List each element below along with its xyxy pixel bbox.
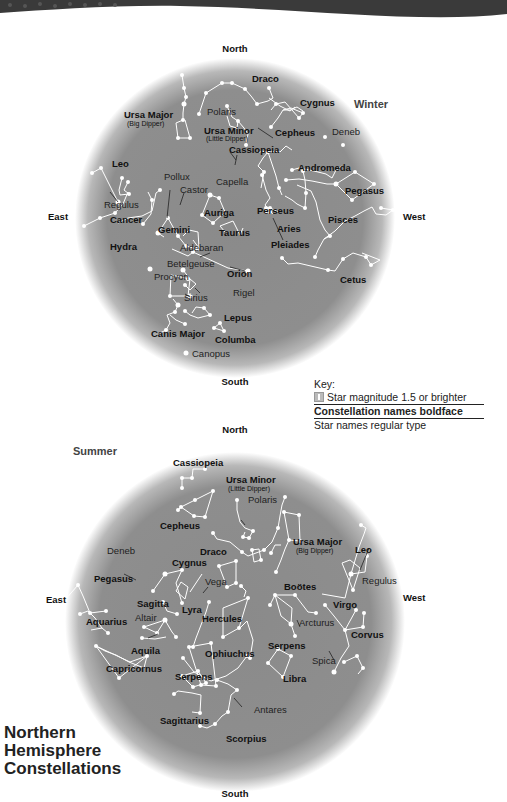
- svg-text:Libra: Libra: [283, 673, 307, 684]
- svg-text:Procyon: Procyon: [154, 271, 189, 282]
- svg-text:Andromeda: Andromeda: [298, 162, 352, 173]
- summer-season-label: Summer: [73, 445, 118, 457]
- svg-text:Perseus: Perseus: [257, 205, 294, 216]
- svg-text:Hercules: Hercules: [202, 613, 242, 624]
- svg-text:Lepus: Lepus: [224, 312, 252, 323]
- svg-text:Cepheus: Cepheus: [275, 127, 315, 138]
- summer-east-label: East: [46, 594, 67, 605]
- svg-text:Serpens: Serpens: [268, 640, 306, 651]
- bright-star-icon: [314, 392, 324, 402]
- svg-text:Aries: Aries: [277, 223, 301, 234]
- svg-text:Capricornus: Capricornus: [106, 663, 162, 674]
- svg-text:Auriga: Auriga: [204, 207, 235, 218]
- svg-text:Altair: Altair: [135, 612, 157, 623]
- svg-text:Cancer: Cancer: [110, 214, 143, 225]
- winter-map: North South East West Winter Draco Cygnu…: [48, 43, 426, 387]
- svg-text:Sagittarius: Sagittarius: [160, 715, 209, 726]
- svg-text:Polaris: Polaris: [248, 494, 277, 505]
- svg-text:Deneb: Deneb: [107, 545, 135, 556]
- svg-text:Canis Major: Canis Major: [151, 328, 205, 339]
- svg-text:Castor: Castor: [180, 184, 208, 195]
- svg-text:Cygnus: Cygnus: [172, 557, 207, 568]
- svg-text:Aldebaran: Aldebaran: [180, 242, 223, 253]
- svg-text:Antares: Antares: [254, 704, 287, 715]
- legend-item-bright-star: Star magnitude 1.5 or brighter: [314, 391, 484, 405]
- svg-text:(Big Dipper): (Big Dipper): [127, 120, 164, 128]
- winter-south-label: South: [222, 376, 249, 387]
- svg-text:Polaris: Polaris: [207, 106, 236, 117]
- svg-text:Leo: Leo: [112, 158, 129, 169]
- svg-text:Regulus: Regulus: [362, 575, 397, 586]
- svg-text:Cygnus: Cygnus: [300, 97, 335, 108]
- summer-west-label: West: [403, 592, 426, 603]
- svg-text:Pisces: Pisces: [328, 214, 358, 225]
- svg-text:Scorpius: Scorpius: [226, 733, 267, 744]
- svg-text:Regulus: Regulus: [104, 199, 139, 210]
- svg-text:Pegasus: Pegasus: [345, 185, 384, 196]
- svg-text:Capella: Capella: [216, 176, 249, 187]
- legend-heading: Key:: [314, 378, 484, 391]
- svg-text:Gemini: Gemini: [158, 224, 190, 235]
- svg-text:Vega: Vega: [205, 576, 227, 587]
- svg-text:(Little Dipper): (Little Dipper): [228, 485, 270, 493]
- svg-text:Serpens: Serpens: [175, 671, 213, 682]
- svg-text:Leo: Leo: [355, 544, 372, 555]
- svg-text:Columba: Columba: [215, 334, 256, 345]
- svg-text:Pegasus: Pegasus: [94, 573, 133, 584]
- winter-east-label: East: [48, 211, 69, 222]
- svg-text:Taurus: Taurus: [219, 227, 250, 238]
- svg-text:Corvus: Corvus: [351, 629, 384, 640]
- winter-west-label: West: [403, 211, 426, 222]
- svg-text:Boötes: Boötes: [284, 581, 316, 592]
- svg-text:Ursa Minor: Ursa Minor: [226, 474, 276, 485]
- legend-item-constellation: Constellation names boldface: [314, 405, 484, 419]
- svg-text:Orion: Orion: [227, 268, 253, 279]
- svg-text:Cetus: Cetus: [340, 274, 366, 285]
- legend: Key: Star magnitude 1.5 or brighter Cons…: [314, 378, 484, 432]
- winter-north-label: North: [222, 43, 248, 54]
- svg-text:Sirius: Sirius: [184, 292, 208, 303]
- svg-text:Pleiades: Pleiades: [271, 239, 310, 250]
- page-title: Northern Hemisphere Constellations: [4, 724, 121, 778]
- svg-text:Ophiuchus: Ophiuchus: [205, 648, 255, 659]
- svg-text:Cassiopeia: Cassiopeia: [173, 457, 224, 468]
- title-line-3: Constellations: [4, 760, 121, 778]
- svg-text:Draco: Draco: [200, 546, 227, 557]
- svg-text:Deneb: Deneb: [332, 126, 360, 137]
- svg-text:(Big Dipper): (Big Dipper): [296, 547, 333, 555]
- svg-text:Canopus: Canopus: [192, 348, 230, 359]
- legend-bright-star-label: Star magnitude 1.5 or brighter: [327, 391, 467, 403]
- svg-text:Lyra: Lyra: [182, 604, 202, 615]
- svg-text:Spica: Spica: [312, 655, 336, 666]
- svg-text:Arcturus: Arcturus: [299, 617, 335, 628]
- svg-text:Ursa Major: Ursa Major: [293, 536, 342, 547]
- svg-text:Cepheus: Cepheus: [160, 520, 200, 531]
- svg-text:Ursa Major: Ursa Major: [124, 109, 173, 120]
- svg-text:Rigel: Rigel: [233, 287, 255, 298]
- svg-text:Aquarius: Aquarius: [86, 616, 127, 627]
- svg-text:(Little Dipper): (Little Dipper): [206, 135, 248, 143]
- svg-text:Hydra: Hydra: [110, 241, 138, 252]
- svg-text:Pollux: Pollux: [164, 171, 190, 182]
- svg-text:Cassiopeia: Cassiopeia: [229, 144, 280, 155]
- svg-text:Virgo: Virgo: [333, 599, 357, 610]
- legend-item-star-name: Star names regular type: [314, 419, 484, 432]
- title-line-1: Northern: [4, 724, 121, 742]
- summer-south-label: South: [222, 788, 249, 799]
- winter-season-label: Winter: [354, 98, 389, 110]
- svg-text:Betelgeuse: Betelgeuse: [167, 258, 215, 269]
- svg-text:Aquila: Aquila: [131, 645, 161, 656]
- summer-north-label: North: [222, 424, 248, 435]
- svg-text:Draco: Draco: [252, 73, 279, 84]
- svg-text:Sagitta: Sagitta: [137, 598, 169, 609]
- title-line-2: Hemisphere: [4, 742, 121, 760]
